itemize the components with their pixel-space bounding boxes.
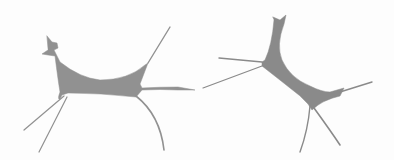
image-canvas	[0, 0, 394, 160]
left-cell-shape	[24, 27, 195, 152]
cells-illustration	[0, 0, 394, 160]
right-cell-shape	[203, 15, 372, 152]
